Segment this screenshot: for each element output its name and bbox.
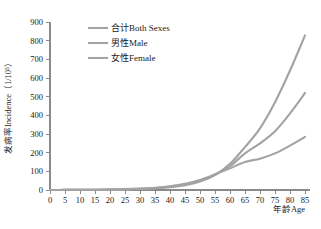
y-tick-label: 800 — [30, 36, 43, 46]
series-line-2 — [50, 137, 305, 190]
x-tick-label: 5 — [63, 195, 67, 205]
x-tick-label: 70 — [256, 195, 265, 205]
series-line-0 — [50, 93, 305, 190]
x-tick-label: 65 — [241, 195, 250, 205]
y-tick-label: 500 — [30, 92, 43, 102]
y-tick-label: 400 — [30, 110, 43, 120]
x-tick-label: 25 — [121, 195, 130, 205]
legend-label-2: 女性Female — [111, 52, 156, 63]
x-tick-label: 10 — [76, 195, 85, 205]
x-axis-title: 年龄Age — [273, 204, 305, 214]
x-tick-label: 50 — [196, 195, 205, 205]
x-tick-label: 15 — [91, 195, 100, 205]
chart-canvas: 0100200300400500600700800900 发病率Incidenc… — [0, 0, 321, 229]
x-tick-label: 55 — [211, 195, 220, 205]
legend-label-1: 男性Male — [111, 37, 148, 48]
x-tick-label: 40 — [166, 195, 175, 205]
x-tick-label: 0 — [48, 195, 52, 205]
y-axis: 0100200300400500600700800900 发病率Incidenc… — [3, 17, 50, 195]
x-tick-label: 20 — [106, 195, 115, 205]
y-tick-label: 900 — [30, 17, 43, 27]
x-tick-label: 60 — [226, 195, 235, 205]
x-axis-ticks: 0510152025303540455055606570758085 — [48, 190, 309, 205]
y-tick-label: 300 — [30, 129, 43, 139]
y-tick-label: 0 — [39, 185, 43, 195]
y-axis-title: 发病率Incidence（1/10⁵） — [3, 58, 13, 154]
incidence-by-age-chart: 0100200300400500600700800900 发病率Incidenc… — [0, 0, 321, 229]
y-axis-ticks: 0100200300400500600700800900 — [30, 17, 50, 195]
y-tick-label: 700 — [30, 54, 43, 64]
chart-legend: 合计Both Sexes男性Male女性Female — [88, 22, 170, 63]
x-tick-label: 45 — [181, 195, 190, 205]
legend-label-0: 合计Both Sexes — [111, 22, 170, 33]
x-tick-label: 35 — [151, 195, 160, 205]
x-axis: 0510152025303540455055606570758085 年龄Age — [48, 190, 310, 214]
y-tick-label: 100 — [30, 166, 43, 176]
y-tick-label: 200 — [30, 148, 43, 158]
y-tick-label: 600 — [30, 73, 43, 83]
x-tick-label: 30 — [136, 195, 145, 205]
